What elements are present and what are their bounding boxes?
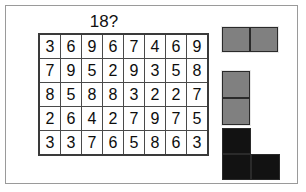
grid-cell[interactable]: 2 — [103, 107, 124, 131]
grid-cell[interactable]: 8 — [187, 59, 209, 83]
grid-cell[interactable]: 5 — [61, 83, 82, 107]
grid-cell[interactable]: 9 — [82, 34, 103, 59]
grid-cell[interactable]: 4 — [145, 34, 166, 59]
grid-cell[interactable]: 9 — [124, 59, 145, 83]
grid-cell[interactable]: 7 — [124, 34, 145, 59]
grid-cell[interactable]: 7 — [82, 131, 103, 156]
grid-cell[interactable]: 6 — [103, 34, 124, 59]
pieces-area — [216, 26, 296, 176]
grid-cell[interactable]: 7 — [166, 107, 187, 131]
number-grid: 3696746979529358858832272642797533765863 — [38, 33, 209, 156]
grid-cell[interactable]: 3 — [61, 131, 82, 156]
piece-cell-empty — [251, 128, 280, 154]
piece-cell — [222, 154, 251, 180]
grid-cell[interactable]: 6 — [61, 107, 82, 131]
grid-cell[interactable]: 8 — [103, 83, 124, 107]
piece-cell — [250, 27, 278, 52]
grid-cell[interactable]: 6 — [61, 34, 82, 59]
grid-cell[interactable]: 3 — [145, 59, 166, 83]
piece-cell — [251, 154, 280, 180]
grid-cell[interactable]: 5 — [82, 59, 103, 83]
grid-cell[interactable]: 8 — [82, 83, 103, 107]
grid-cell[interactable]: 3 — [39, 34, 61, 59]
table-row: 85883227 — [39, 83, 208, 107]
grid-cell[interactable]: 6 — [166, 34, 187, 59]
table-row: 79529358 — [39, 59, 208, 83]
grid-cell[interactable]: 7 — [187, 83, 209, 107]
grid-cell[interactable]: 5 — [187, 107, 209, 131]
grid-cell[interactable]: 2 — [39, 107, 61, 131]
grid-cell[interactable]: 9 — [187, 34, 209, 59]
puzzle-frame: 18? 369674697952935885883227264279753376… — [5, 5, 298, 184]
grid-cell[interactable]: 3 — [39, 131, 61, 156]
number-grid-body: 3696746979529358858832272642797533765863 — [39, 34, 208, 155]
page-title: 18? — [6, 12, 202, 32]
grid-cell[interactable]: 9 — [61, 59, 82, 83]
grid-cell[interactable]: 6 — [103, 131, 124, 156]
piece-horizontal-domino[interactable] — [221, 26, 279, 53]
grid-cell[interactable]: 5 — [166, 59, 187, 83]
piece-cell — [222, 71, 250, 98]
piece-cell — [222, 128, 251, 154]
grid-cell[interactable]: 7 — [39, 59, 61, 83]
grid-cell[interactable]: 9 — [145, 107, 166, 131]
table-row: 26427975 — [39, 107, 208, 131]
grid-cell[interactable]: 7 — [124, 107, 145, 131]
grid-cell[interactable]: 2 — [145, 83, 166, 107]
grid-cell[interactable]: 2 — [166, 83, 187, 107]
piece-l-tromino[interactable] — [221, 127, 281, 181]
grid-cell[interactable]: 8 — [39, 83, 61, 107]
grid-cell[interactable]: 4 — [82, 107, 103, 131]
grid-cell[interactable]: 5 — [124, 131, 145, 156]
grid-cell[interactable]: 2 — [103, 59, 124, 83]
table-row: 33765863 — [39, 131, 208, 156]
piece-cell — [222, 27, 250, 52]
piece-cell — [222, 98, 250, 125]
grid-cell[interactable]: 8 — [145, 131, 166, 156]
grid-cell[interactable]: 3 — [124, 83, 145, 107]
piece-vertical-domino[interactable] — [221, 70, 251, 126]
grid-cell[interactable]: 6 — [166, 131, 187, 156]
grid-cell[interactable]: 3 — [187, 131, 209, 156]
table-row: 36967469 — [39, 34, 208, 59]
